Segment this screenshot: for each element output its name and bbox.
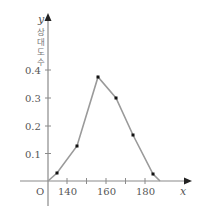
x-tick-label: 180 bbox=[136, 186, 155, 197]
data-point bbox=[115, 97, 118, 100]
data-point bbox=[76, 145, 79, 148]
y-tick-label: 0.1 bbox=[25, 149, 41, 160]
y-axis-variable: y bbox=[37, 13, 45, 26]
y-tick-label: 0.3 bbox=[25, 93, 41, 104]
x-tick-label: 140 bbox=[58, 186, 77, 197]
x-axis-arrow-icon bbox=[184, 178, 192, 185]
y-axis-label-char: 대 bbox=[37, 37, 45, 47]
data-point bbox=[56, 172, 59, 175]
origin-label: O bbox=[36, 186, 44, 197]
data-point bbox=[132, 134, 135, 137]
data-point bbox=[97, 76, 100, 79]
data-points bbox=[56, 76, 155, 176]
y-tick-label: 0.2 bbox=[25, 121, 41, 132]
x-axis-variable: x bbox=[180, 185, 187, 198]
y-axis-arrow-icon bbox=[45, 13, 52, 21]
frequency-polygon-chart: y 상 대 도 수 0.4 0.3 0.2 0.1 O 140 160 180 … bbox=[0, 0, 200, 221]
data-point bbox=[152, 173, 155, 176]
y-axis-label-char: 도 bbox=[37, 47, 45, 57]
x-tick-label: 160 bbox=[97, 186, 116, 197]
y-tick-label: 0.4 bbox=[25, 65, 41, 76]
y-axis-label-char: 상 bbox=[37, 27, 45, 37]
frequency-polygon-line bbox=[48, 77, 160, 181]
